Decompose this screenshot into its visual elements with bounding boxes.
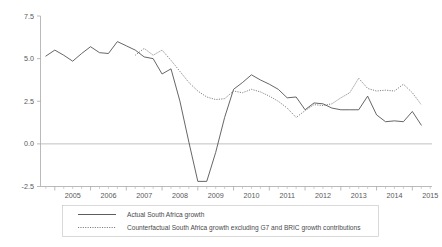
legend-box	[63, 206, 379, 237]
line-chart: 7.55.02.50.0-2.5 20052006200720082009201…	[0, 0, 442, 247]
legend-label-counterfactual: Counterfactual South Africa growth exclu…	[127, 224, 361, 232]
y-tick-label: 7.5	[24, 12, 34, 21]
x-tick-label: 2008	[172, 191, 188, 200]
y-tick-label: 2.5	[24, 97, 34, 106]
y-tick-label: 0.0	[24, 139, 34, 148]
y-tick-label: 5.0	[24, 54, 34, 63]
x-tick-label: 2006	[100, 191, 116, 200]
x-tick-label: 2011	[279, 191, 294, 200]
x-tick-label: 2009	[208, 191, 224, 200]
y-tick-label: -2.5	[22, 182, 34, 191]
x-tick-label: 2014	[386, 191, 402, 200]
x-tick-label: 2013	[351, 191, 367, 200]
x-tick-label: 2015	[422, 191, 438, 200]
x-tick-label: 2005	[65, 191, 81, 200]
x-tick-label: 2010	[243, 191, 259, 200]
x-tick-label: 2012	[315, 191, 331, 200]
legend-label-actual: Actual South Africa growth	[127, 211, 205, 219]
x-tick-label: 2007	[136, 191, 152, 200]
chart-figure: 7.55.02.50.0-2.5 20052006200720082009201…	[0, 0, 442, 247]
chart-legend: Actual South Africa growth Counterfactua…	[63, 206, 379, 237]
